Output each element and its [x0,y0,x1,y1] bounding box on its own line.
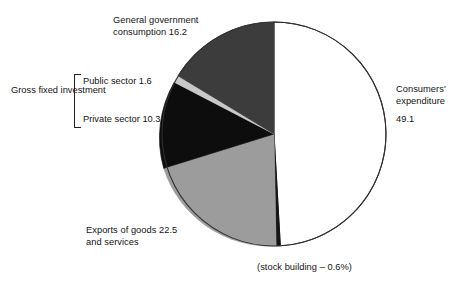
label-general-government-consumption-line2: consumption 16.2 [113,26,198,38]
label-stock-building-note: (stock building – 0.6%) [257,261,352,273]
label-general-government-consumption: General government consumption 16.2 [113,14,198,39]
label-consumers-expenditure-value: 49.1 [396,113,446,125]
label-consumers-expenditure-line1: Consumers' [396,83,446,95]
label-group-gross-fixed-investment: Gross fixed investment Public sector 1.6… [11,74,176,132]
label-gross-fixed-investment-line1: Gross fixed [11,85,58,95]
label-consumers-expenditure: Consumers' expenditure 49.1 [396,83,446,125]
pie-chart-figure: General government consumption 16.2 Cons… [0,0,470,285]
label-public-sector: Public sector 1.6 [83,75,152,87]
label-exports-goods-services-line2: and services [86,236,177,248]
label-exports-goods-services: Exports of goods 22.5 and services [86,224,177,249]
gross-fixed-investment-bracket [74,74,81,128]
pie-chart-svg [0,0,470,285]
label-consumers-expenditure-line2: expenditure [396,95,446,107]
pie-slice-consumers-expenditure[interactable] [274,22,386,246]
label-general-government-consumption-line1: General government [113,14,198,26]
label-exports-goods-services-line1: Exports of goods 22.5 [86,224,177,236]
label-private-sector: Private sector 10.3 [83,113,161,125]
